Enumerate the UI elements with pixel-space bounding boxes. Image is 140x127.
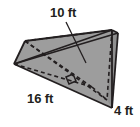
dimension-label-depth: 4 ft bbox=[114, 104, 133, 117]
dimension-label-base: 16 ft bbox=[27, 92, 53, 105]
triangular-prism-figure: 10 ft 16 ft 4 ft bbox=[0, 0, 140, 127]
dimension-label-slant: 10 ft bbox=[50, 6, 76, 19]
